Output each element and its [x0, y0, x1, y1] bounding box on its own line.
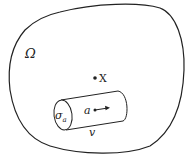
cylinder-axis-label: a [84, 104, 91, 117]
point-x-label: X [99, 72, 107, 85]
point-x-dot [93, 76, 97, 80]
diagram-canvas: Ω X σa a v [0, 0, 188, 158]
arrowhead-icon [105, 106, 110, 110]
region-label: Ω [24, 46, 36, 61]
cylinder-length-label: v [89, 126, 96, 139]
